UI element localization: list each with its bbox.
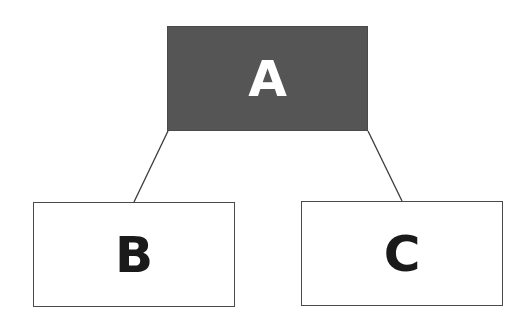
node-a: A	[167, 26, 368, 131]
edge-a-c	[368, 131, 402, 201]
node-c-label: C	[384, 225, 421, 283]
edge-a-b	[134, 131, 168, 202]
node-c: C	[301, 201, 503, 306]
node-b-label: B	[115, 226, 153, 284]
node-b: B	[33, 202, 235, 307]
node-a-label: A	[248, 50, 287, 108]
